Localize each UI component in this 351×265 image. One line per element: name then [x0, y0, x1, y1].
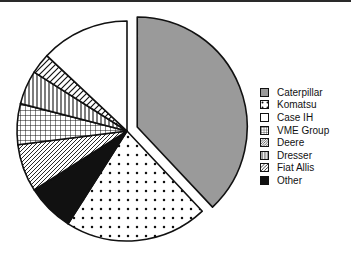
pie-slices: CaterpillarKomatsuOtherDeereVME GroupDre… [17, 17, 247, 241]
legend-swatch-icon [260, 163, 269, 172]
legend-item-vme-group[interactable]: VME Group [260, 124, 348, 137]
legend-swatch-icon [260, 176, 269, 185]
legend-item-label: Komatsu [277, 99, 316, 110]
legend-item-label: Fiat Allis [277, 162, 314, 173]
legend-swatch-icon [260, 126, 269, 135]
legend-swatch-icon [260, 88, 269, 97]
legend-item-fiat-allis[interactable]: Fiat Allis [260, 162, 348, 175]
legend-item-dresser[interactable]: Dresser [260, 149, 348, 162]
legend-swatch-icon [260, 113, 269, 122]
legend-item-label: Caterpillar [277, 87, 323, 98]
pie-chart-svg: CaterpillarKomatsuOtherDeereVME GroupDre… [0, 0, 250, 265]
pie-chart-area: CaterpillarKomatsuOtherDeereVME GroupDre… [0, 0, 250, 265]
legend-swatch-icon [260, 151, 269, 160]
legend-item-label: Other [277, 175, 302, 186]
legend-item-deere[interactable]: Deere [260, 136, 348, 149]
legend-item-case-ih[interactable]: Case IH [260, 111, 348, 124]
legend-swatch-icon [260, 100, 269, 109]
chart-legend: CaterpillarKomatsuCase IHVME GroupDeereD… [260, 86, 348, 187]
legend-swatch-icon [260, 138, 269, 147]
legend-item-caterpillar[interactable]: Caterpillar [260, 86, 348, 99]
legend-item-other[interactable]: Other [260, 174, 348, 187]
legend-item-label: Deere [277, 137, 304, 148]
legend-item-komatsu[interactable]: Komatsu [260, 99, 348, 112]
legend-item-label: Dresser [277, 150, 312, 161]
legend-item-label: Case IH [277, 112, 313, 123]
legend-item-label: VME Group [277, 125, 329, 136]
